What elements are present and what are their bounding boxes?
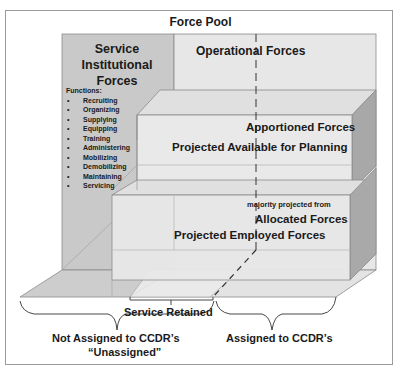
- function-item: Mobilizing: [66, 153, 130, 163]
- function-item: Administering: [66, 143, 130, 153]
- service-institutional-forces-label: Service Institutional Forces: [62, 41, 172, 89]
- majority-projected-note: majority projected from: [247, 200, 331, 209]
- diagram-title: Force Pool: [0, 15, 401, 29]
- apportioned-forces-label: Apportioned Forces: [246, 121, 355, 133]
- functions-list: Functions: Recruiting Organizing Supplyi…: [66, 86, 130, 191]
- function-item: Supplying: [66, 115, 130, 125]
- function-item: Recruiting: [66, 96, 130, 106]
- function-item: Maintaining: [66, 172, 130, 182]
- function-item: Servicing: [66, 181, 130, 191]
- allocated-forces-label: Allocated Forces: [255, 213, 348, 225]
- function-item: Training: [66, 134, 130, 144]
- function-item: Demobilizing: [66, 162, 130, 172]
- unassigned-label: “Unassigned”: [88, 346, 161, 358]
- service-retained-brace: [130, 297, 213, 305]
- function-item: Equipping: [66, 124, 130, 134]
- assigned-label: Assigned to CCDR’s: [226, 332, 333, 344]
- allocated-box-top: [112, 180, 376, 195]
- assigned-brace: [216, 297, 336, 330]
- sif-line-1: Service: [62, 41, 172, 57]
- service-retained-label: Service Retained: [124, 306, 213, 318]
- projected-available-label: Projected Available for Planning: [172, 141, 348, 153]
- operational-forces-label: Operational Forces: [196, 44, 305, 58]
- sif-line-2: Institutional: [62, 57, 172, 73]
- functions-header: Functions:: [66, 86, 130, 96]
- function-item: Organizing: [66, 105, 130, 115]
- not-assigned-label: Not Assigned to CCDR’s: [52, 332, 180, 344]
- projected-employed-label: Projected Employed Forces: [174, 229, 325, 241]
